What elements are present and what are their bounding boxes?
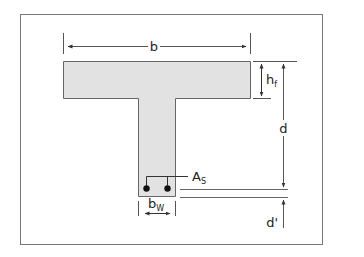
as-label: AS — [192, 169, 206, 186]
d-prime-label: d' — [266, 215, 278, 230]
b-label: b — [150, 39, 158, 54]
d-label: d — [279, 121, 287, 136]
bw-dimension: bW — [139, 196, 176, 216]
d-prime-dimension: d' — [266, 200, 283, 230]
bw-label: bW — [148, 196, 164, 213]
rebar-bar-left — [143, 185, 149, 191]
hf-label: hf — [266, 72, 277, 89]
rebar-bar-right — [164, 185, 170, 191]
d-dimension: d — [276, 64, 291, 187]
b-dimension: b — [64, 33, 251, 54]
t-beam-diagram: b hf d d' AS bW — [0, 0, 364, 257]
hf-dimension: hf — [253, 62, 297, 99]
